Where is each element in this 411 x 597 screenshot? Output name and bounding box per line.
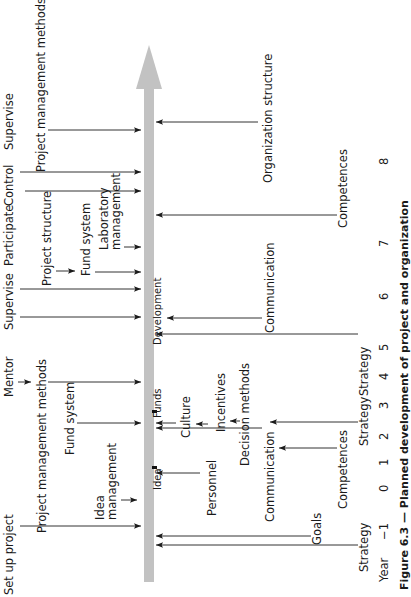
project-label-fund-system: Fund system: [64, 382, 77, 455]
org-label-funds: Funds: [152, 389, 163, 418]
year-tick: 1: [378, 459, 391, 466]
org-label-competences: Competences: [337, 149, 350, 228]
role-label-control: Control: [3, 164, 16, 206]
year-tick: 6: [378, 293, 391, 300]
org-label-idea: Idea: [152, 468, 163, 490]
org-label-personnel: Personnel: [206, 460, 219, 516]
year-tick: 7: [378, 240, 391, 247]
project-label-idea: Ideamanagement: [94, 443, 118, 520]
year-tick: 3: [378, 402, 391, 409]
org-label-communication: Communication: [264, 242, 277, 333]
role-label-mentor: Mentor: [3, 356, 16, 397]
org-label-decision-methods: Decision methods: [239, 363, 252, 466]
org-label-culture: Culture: [180, 396, 193, 438]
project-label-project-management-methods: Project management methods: [36, 359, 49, 533]
organization-arrows: [156, 122, 358, 545]
project-label-project-structure: Project structure: [41, 191, 54, 286]
org-label-organization-structure: Organization structure: [262, 54, 275, 183]
project-label-project-management-methods: Project management methods: [35, 0, 48, 172]
org-label-strategy: Strategy: [358, 347, 371, 396]
year-tick: 5: [378, 344, 391, 351]
role-label-set-up-project: Set up project: [3, 514, 16, 595]
role-label-supervise: Supervise: [3, 273, 16, 330]
org-label-competences: Competences: [337, 430, 350, 509]
year-tick: 4: [378, 373, 391, 380]
year-tick: 8: [378, 158, 391, 165]
org-label-incentives: Incentives: [215, 373, 228, 432]
project-label-laboratory: Laboratorymanagement: [98, 173, 122, 250]
figure-caption: Figure 6.3 — Planned development of proj…: [398, 200, 411, 590]
role-label-participate: Participate: [3, 205, 16, 266]
org-label-strategy: Strategy: [358, 523, 371, 572]
year-tick: 2: [378, 433, 391, 440]
year-tick: −1: [378, 523, 391, 540]
org-label-strategy: Strategy: [358, 397, 371, 446]
org-label-goals: Goals: [311, 513, 324, 545]
org-label-communication: Communication: [264, 431, 277, 522]
org-label-development: Development: [152, 278, 163, 345]
year-tick: 0: [378, 485, 391, 492]
year-axis-label: Year: [378, 558, 391, 582]
role-label-supervise: Supervise: [3, 93, 16, 150]
project-label-fund-system: Fund system: [80, 203, 93, 276]
